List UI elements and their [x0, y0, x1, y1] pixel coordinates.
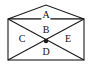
- geometric-figure: A B C D E: [0, 0, 92, 67]
- region-label-c: C: [18, 34, 27, 44]
- region-label-a: A: [41, 10, 50, 20]
- center-point-dot: [44, 39, 48, 43]
- region-label-d: D: [41, 47, 50, 57]
- region-label-e: E: [64, 34, 72, 44]
- region-label-b: B: [42, 25, 51, 35]
